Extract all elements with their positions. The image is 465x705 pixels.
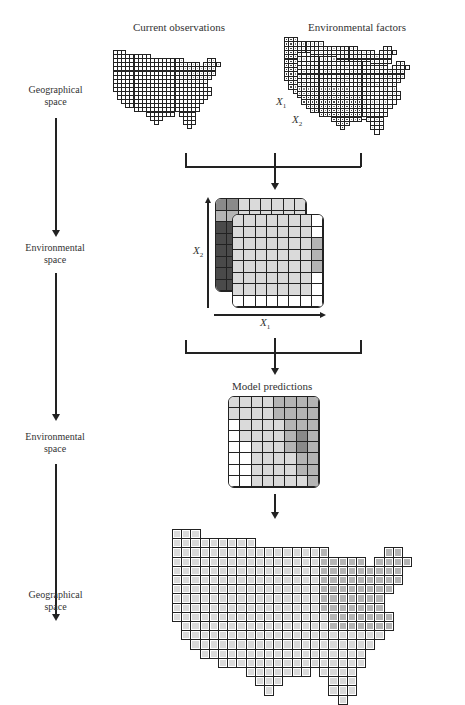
var-subscript: 2: [299, 120, 303, 128]
grid-cell: [285, 453, 296, 464]
grid-cell: [233, 238, 244, 250]
grid-cell: [308, 442, 319, 453]
grid-cell: [244, 273, 255, 285]
grid-cell: [274, 397, 285, 408]
map-cell: [384, 621, 394, 631]
grid-cell: [285, 465, 296, 476]
grid-cell: [233, 296, 244, 308]
grid-cell: [289, 227, 300, 239]
map-cell: [347, 685, 357, 695]
grid-cell: [301, 273, 312, 285]
var-symbol: X: [193, 244, 200, 256]
label-line: Environmental: [15, 242, 95, 254]
grid-cell: [267, 284, 278, 296]
map-cell: [301, 667, 311, 677]
var-symbol: X: [260, 316, 267, 328]
grid-cell: [278, 296, 289, 308]
grid-cell: [256, 227, 267, 239]
grid-cell: [252, 476, 263, 487]
axis-label-x1: X1: [260, 316, 270, 331]
grid-cell: [233, 227, 244, 239]
grid-cell: [256, 238, 267, 250]
label-line: Environmental: [15, 431, 95, 443]
grid-cell: [301, 261, 312, 273]
arrow-shaft: [55, 180, 57, 232]
grid-cell: [263, 431, 274, 442]
grid-cell: [308, 408, 319, 419]
grid-cell: [233, 273, 244, 285]
label-environmental-space-1: Environmental space: [15, 242, 95, 266]
label-x2: X2: [292, 113, 302, 128]
map-cell: [393, 575, 403, 585]
grid-cell: [240, 397, 251, 408]
grid-cell: [295, 199, 306, 211]
grid-cell: [278, 261, 289, 273]
grid-cell: [216, 245, 227, 257]
label-line: space: [15, 254, 95, 266]
map-cell: [273, 676, 283, 686]
grid-cell: [289, 250, 300, 262]
grid-cell: [233, 284, 244, 296]
grid-cell: [263, 453, 274, 464]
grid-cell: [308, 431, 319, 442]
grid-cell: [240, 442, 251, 453]
grid-cell: [263, 420, 274, 431]
grid-cell: [229, 476, 240, 487]
axis-x2: [207, 200, 209, 308]
map-environmental-factor-x2: [297, 52, 409, 134]
grid-cell: [256, 250, 267, 262]
label-line: space: [18, 96, 93, 108]
bracket-stem: [274, 338, 276, 371]
grid-cell: [244, 284, 255, 296]
grid-cell: [274, 431, 285, 442]
grid-cell: [240, 453, 251, 464]
grid-cell: [308, 476, 319, 487]
var-symbol: X: [292, 113, 299, 125]
title-model-predictions: Model predictions: [232, 380, 312, 392]
map-cell: [338, 695, 348, 705]
grid-cell: [229, 431, 240, 442]
grid-cell: [278, 250, 289, 262]
grid-cell: [274, 408, 285, 419]
grid-cell: [267, 227, 278, 239]
map-cell: [264, 685, 274, 695]
grid-cell: [297, 431, 308, 442]
grid-cell: [263, 476, 274, 487]
grid-cell: [263, 397, 274, 408]
grid-cell: [267, 261, 278, 273]
grid-cell: [263, 465, 274, 476]
label-line: space: [15, 443, 95, 455]
arrowhead-down-icon: [52, 614, 60, 621]
grid-cell: [308, 465, 319, 476]
grid-cell: [289, 261, 300, 273]
grid-cell: [278, 273, 289, 285]
grid-cell: [308, 453, 319, 464]
grid-cell: [267, 215, 278, 227]
grid-cell: [216, 199, 227, 211]
grid-cell: [289, 273, 300, 285]
grid-cell: [312, 261, 323, 273]
grid-cell: [256, 273, 267, 285]
grid-cell: [229, 465, 240, 476]
map-cell: [356, 658, 366, 668]
grid-cell: [216, 268, 227, 280]
arrowhead-down-icon: [271, 512, 279, 519]
grid-cell: [297, 476, 308, 487]
grid-cell: [301, 227, 312, 239]
label-geographical-space-top: Geographical space: [18, 84, 93, 108]
label-line: space: [18, 601, 93, 613]
grid-cell: [216, 222, 227, 234]
grid-cell: [284, 199, 295, 211]
grid-cell: [312, 284, 323, 296]
grid-cell: [252, 397, 263, 408]
grid-cell: [216, 257, 227, 269]
title-current-observations: Current observations: [133, 21, 225, 33]
grid-cell: [289, 284, 300, 296]
grid-cell: [278, 215, 289, 227]
map-cell: [374, 630, 384, 640]
grid-cell: [252, 408, 263, 419]
grid-cell: [297, 453, 308, 464]
grid-cell: [256, 296, 267, 308]
grid-cell: [229, 420, 240, 431]
grid-cell: [261, 199, 272, 211]
